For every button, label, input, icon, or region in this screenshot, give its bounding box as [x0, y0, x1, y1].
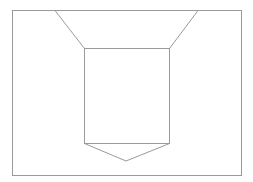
- right-top-diagonal: [170, 11, 199, 49]
- bottom-chevron: [85, 144, 170, 162]
- outer-frame: [13, 11, 242, 176]
- inner-box: [85, 49, 170, 144]
- left-top-diagonal: [55, 11, 85, 49]
- line-diagram: [0, 0, 253, 182]
